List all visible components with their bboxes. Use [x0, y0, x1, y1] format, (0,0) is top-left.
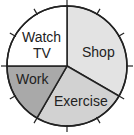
label-watch-tv-line1: Watch [22, 29, 61, 45]
label-exercise: Exercise [54, 93, 108, 109]
label-watch-tv-line2: TV [33, 45, 52, 61]
pie-chart: Shop Exercise Work Watch TV [0, 0, 134, 135]
label-work: Work [16, 71, 49, 87]
label-shop: Shop [82, 44, 115, 60]
